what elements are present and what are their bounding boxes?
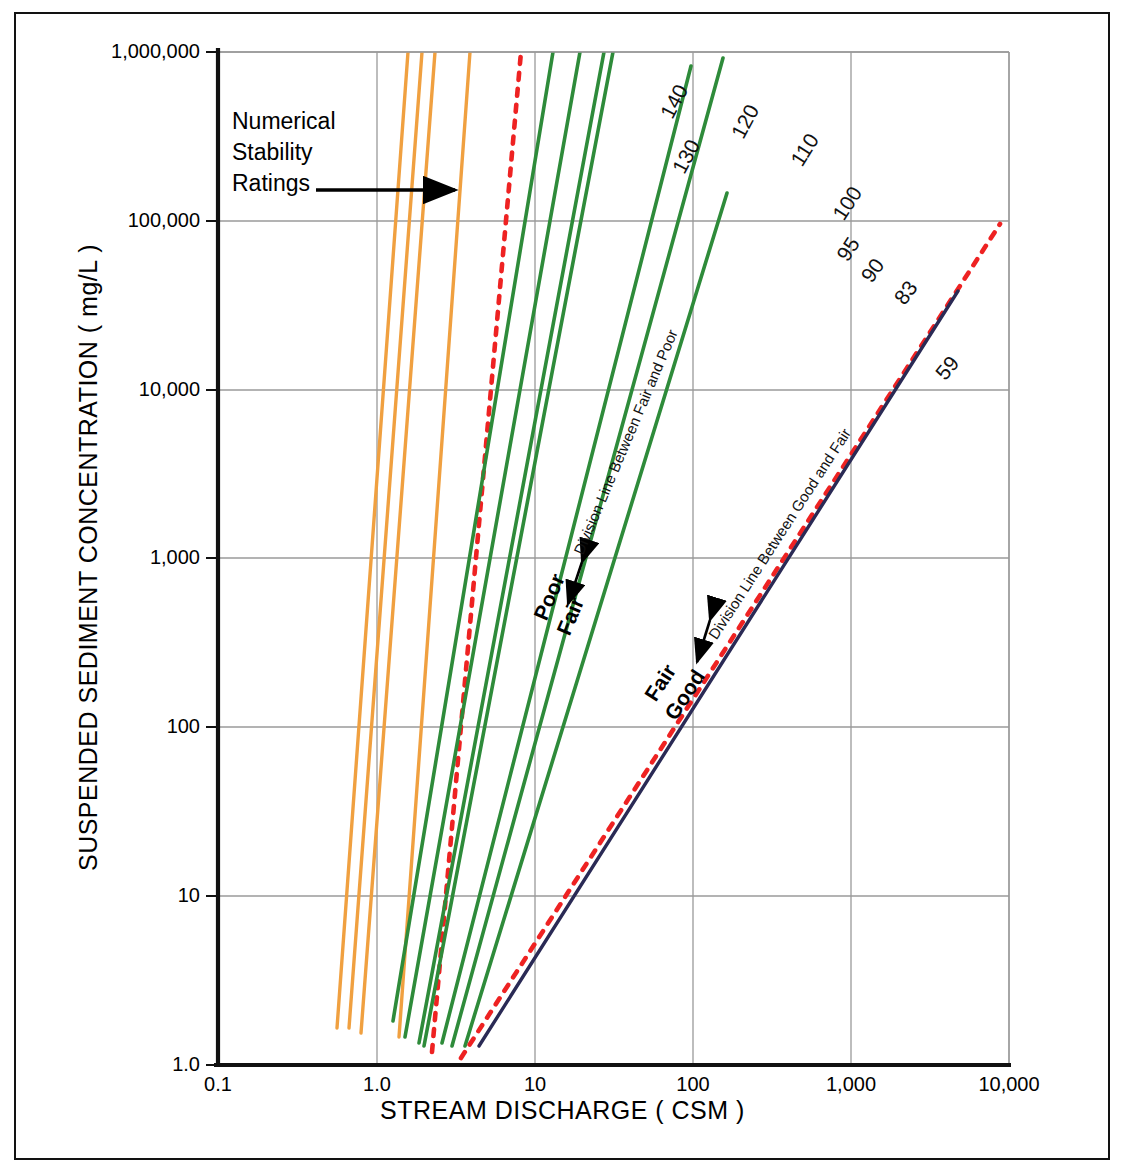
xtick-label-1: 1.0: [327, 1073, 427, 1096]
x-axis-title: STREAM DISCHARGE ( CSM ): [0, 1096, 1125, 1125]
y-axis-title: SUSPENDED SEDIMENT CONCENTRATION ( mg/L …: [74, 208, 103, 908]
chart-root: 1,000,000 100,000 10,000 1,000 100 10 1.…: [0, 0, 1125, 1175]
ytick-label-1000000: 1,000,000: [28, 40, 200, 63]
curve-110: [393, 52, 553, 1021]
ytick-label-100000: 100,000: [28, 209, 200, 232]
xtick-label-100: 100: [643, 1073, 743, 1096]
ytick-label-10000: 10,000: [28, 378, 200, 401]
ytick-label-10: 10: [28, 884, 200, 907]
xtick-label-10: 10: [485, 1073, 585, 1096]
annotation-line-2: Stability: [232, 137, 336, 168]
ytick-label-100: 100: [28, 715, 200, 738]
ytick-label-1000: 1,000: [28, 546, 200, 569]
annotation-line-3: Ratings: [232, 168, 336, 199]
curve-105: [405, 52, 580, 1037]
annotation-line-1: Numerical: [232, 106, 336, 137]
data-curves: [337, 52, 1000, 1058]
curve-59: [479, 291, 958, 1046]
xtick-label-10000: 10,000: [959, 1073, 1059, 1096]
numerical-stability-ratings-annotation: Numerical Stability Ratings: [232, 106, 336, 199]
xtick-label-1000: 1,000: [801, 1073, 901, 1096]
xtick-label-0.1: 0.1: [168, 1073, 268, 1096]
